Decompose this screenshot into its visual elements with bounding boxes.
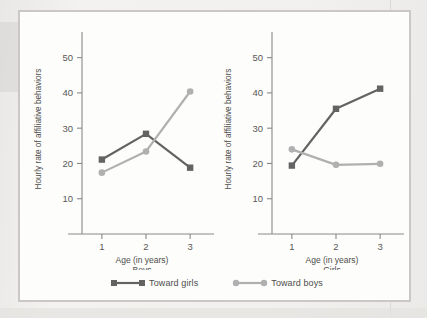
scan-band-bottom xyxy=(0,308,427,318)
data-point-marker xyxy=(333,162,340,169)
chart-legend: Toward girls Toward boys xyxy=(20,270,413,296)
x-tick-label: 2 xyxy=(333,241,338,252)
data-point-marker xyxy=(289,146,296,153)
data-point-marker xyxy=(377,85,383,91)
chart-panel-boys: 1020304050123Age (in years)BoysHourly ra… xyxy=(24,12,216,270)
data-point-marker xyxy=(187,88,194,95)
x-axis-title: Age (in years) xyxy=(116,255,169,265)
charts-row: 1020304050123Age (in years)BoysHourly ra… xyxy=(20,12,409,270)
x-tick-label: 3 xyxy=(377,241,382,252)
y-tick-label: 30 xyxy=(62,123,73,134)
data-point-marker xyxy=(99,156,105,162)
y-tick-label: 10 xyxy=(62,193,73,204)
chart-panel-girls: 1020304050123Age (in years)GirlsHourly r… xyxy=(214,12,406,270)
data-point-marker xyxy=(143,131,149,137)
y-tick-label: 50 xyxy=(252,52,263,63)
legend-label-toward-girls: Toward girls xyxy=(149,278,198,288)
legend-entry-toward-girls: Toward girls xyxy=(110,277,198,289)
data-point-marker xyxy=(143,148,150,155)
data-point-marker xyxy=(377,161,384,168)
x-tick-label: 3 xyxy=(187,241,192,252)
chart-svg-girls: 1020304050123Age (in years)GirlsHourly r… xyxy=(214,12,406,270)
y-tick-label: 20 xyxy=(62,158,73,169)
legend-entry-toward-boys: Toward boys xyxy=(232,277,323,289)
figure-frame: 1020304050123Age (in years)BoysHourly ra… xyxy=(18,10,411,302)
y-tick-label: 20 xyxy=(252,158,263,169)
chart-svg-boys: 1020304050123Age (in years)BoysHourly ra… xyxy=(24,12,216,270)
y-tick-label: 40 xyxy=(62,87,73,98)
x-tick-label: 2 xyxy=(143,241,148,252)
data-point-marker xyxy=(333,106,339,112)
y-tick-label: 30 xyxy=(252,123,263,134)
x-tick-label: 1 xyxy=(99,241,104,252)
y-axis-title: Hourly rate of affiliative behaviors xyxy=(224,69,233,190)
data-point-marker xyxy=(289,162,295,168)
y-tick-label: 50 xyxy=(62,52,73,63)
legend-label-toward-boys: Toward boys xyxy=(271,278,323,288)
x-axis-title: Age (in years) xyxy=(306,255,359,265)
data-point-marker xyxy=(99,169,106,176)
y-axis-title: Hourly rate of affiliative behaviors xyxy=(34,69,43,190)
data-point-marker xyxy=(187,164,193,170)
x-tick-label: 1 xyxy=(289,241,294,252)
legend-swatch-toward-girls xyxy=(110,277,146,289)
legend-swatch-toward-boys xyxy=(232,277,268,289)
y-tick-label: 10 xyxy=(252,193,263,204)
y-tick-label: 40 xyxy=(252,87,263,98)
